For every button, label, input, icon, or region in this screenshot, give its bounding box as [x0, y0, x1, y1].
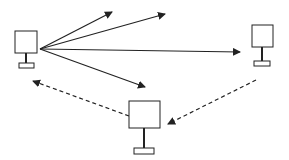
monitor-icon: [129, 101, 160, 154]
solid-arrow-4: [40, 49, 145, 87]
network-diagram: [0, 0, 289, 160]
solid-arrow-3: [40, 49, 240, 52]
monitor-icon: [15, 31, 37, 68]
monitor-icon: [252, 25, 273, 66]
solid-arrow-2: [40, 14, 165, 49]
monitor-base: [19, 63, 34, 68]
monitor-base: [134, 148, 154, 154]
bottom-monitor: [129, 101, 160, 154]
left-monitor: [15, 31, 37, 68]
solid-arrow-1: [40, 12, 112, 49]
dashed-arrow-right-to-bottom: [168, 80, 256, 124]
monitor-base: [254, 61, 270, 66]
right-monitor: [252, 25, 273, 66]
nodes: [15, 25, 273, 154]
dashed-arrow-bottom-to-left: [33, 81, 129, 116]
monitor-screen: [129, 101, 160, 128]
monitor-screen: [252, 25, 273, 47]
monitor-screen: [15, 31, 37, 53]
